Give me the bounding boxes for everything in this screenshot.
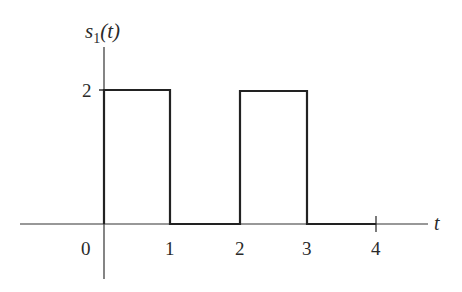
x-tick-label-4: 4 <box>371 238 381 259</box>
x-tick-label-0: 0 <box>81 238 91 259</box>
y-axis-label: s1(t) <box>85 19 120 46</box>
signal-waveform <box>104 90 376 224</box>
x-tick-label-1: 1 <box>165 238 175 259</box>
x-tick-label-2: 2 <box>235 238 245 259</box>
pulse-diagram: s1(t) 2 t 0 1 2 3 4 <box>0 0 462 292</box>
y-tick-label: 2 <box>82 80 92 101</box>
x-tick-label-3: 3 <box>302 238 312 259</box>
x-axis-label: t <box>434 212 440 234</box>
